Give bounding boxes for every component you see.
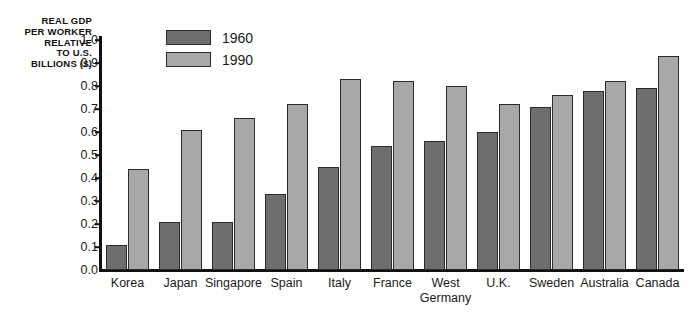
bar-1960 — [106, 245, 127, 270]
x-axis-category-label: West Germany — [420, 276, 471, 306]
bar-group — [318, 40, 361, 270]
x-axis-category-label: Australia — [580, 276, 629, 291]
bar-1990 — [552, 95, 573, 270]
bar-group — [159, 40, 202, 270]
x-axis-category-label: Sweden — [529, 276, 574, 291]
legend-item: 1960 — [166, 28, 253, 47]
bar-1990 — [287, 104, 308, 270]
bar-group — [265, 40, 308, 270]
legend-swatch — [166, 52, 211, 67]
x-axis-category-label: Spain — [271, 276, 303, 291]
legend-label: 1990 — [222, 52, 253, 68]
bar-1960 — [265, 194, 286, 270]
bar-1960 — [477, 132, 498, 270]
bar-1960 — [159, 222, 180, 270]
bar-group — [636, 40, 679, 270]
bar-1960 — [636, 88, 657, 270]
chart-legend: 19601990 — [166, 28, 253, 72]
bar-group — [583, 40, 626, 270]
bar-group — [371, 40, 414, 270]
x-axis-category-label: U.K. — [486, 276, 510, 291]
bar-1990 — [446, 86, 467, 270]
bar-1960 — [212, 222, 233, 270]
bar-1990 — [234, 118, 255, 270]
bar-1990 — [605, 81, 626, 270]
bar-1990 — [128, 169, 149, 270]
legend-item: 1990 — [166, 50, 253, 69]
bar-1990 — [658, 56, 679, 270]
bar-1960 — [530, 107, 551, 270]
x-axis-category-label: Canada — [636, 276, 680, 291]
x-axis-category-label: Italy — [328, 276, 351, 291]
bar-1990 — [393, 81, 414, 270]
bar-group — [212, 40, 255, 270]
bar-1960 — [371, 146, 392, 270]
gdp-per-worker-bar-chart: REAL GDP PER WORKER RELATIVE TO U.S. BIL… — [0, 0, 690, 313]
bar-group — [530, 40, 573, 270]
x-axis-category-label: Singapore — [205, 276, 262, 291]
bar-1960 — [424, 141, 445, 270]
bar-1990 — [340, 79, 361, 270]
bar-group — [477, 40, 520, 270]
bar-1990 — [499, 104, 520, 270]
bar-1960 — [318, 167, 339, 271]
bar-group — [424, 40, 467, 270]
legend-swatch — [166, 30, 211, 45]
bar-1960 — [583, 91, 604, 270]
x-axis-category-label: France — [373, 276, 412, 291]
legend-label: 1960 — [222, 30, 253, 46]
bar-group — [106, 40, 149, 270]
x-axis-category-label: Japan — [163, 276, 197, 291]
plot-area — [101, 40, 684, 270]
x-axis-category-label: Korea — [111, 276, 144, 291]
bar-1990 — [181, 130, 202, 270]
